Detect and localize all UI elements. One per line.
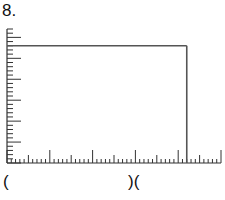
x-axis (7, 150, 221, 163)
y-axis (7, 29, 21, 163)
graph-frame (0, 0, 225, 200)
answer-right-brackets: )( (128, 173, 139, 191)
shape-outline (7, 46, 187, 163)
answer-left-bracket: ( (3, 173, 9, 191)
